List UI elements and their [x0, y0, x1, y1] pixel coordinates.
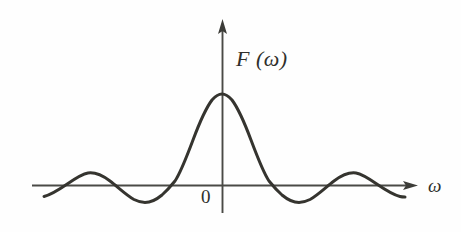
omega-axis — [32, 181, 418, 190]
function-label: F (ω) — [236, 48, 288, 70]
plot-canvas — [0, 0, 461, 232]
fourier-transform-figure: F (ω) 0 ω — [0, 0, 461, 232]
omega-axis-label: ω — [428, 176, 441, 195]
origin-label: 0 — [201, 187, 211, 206]
amplitude-axis — [218, 19, 227, 213]
